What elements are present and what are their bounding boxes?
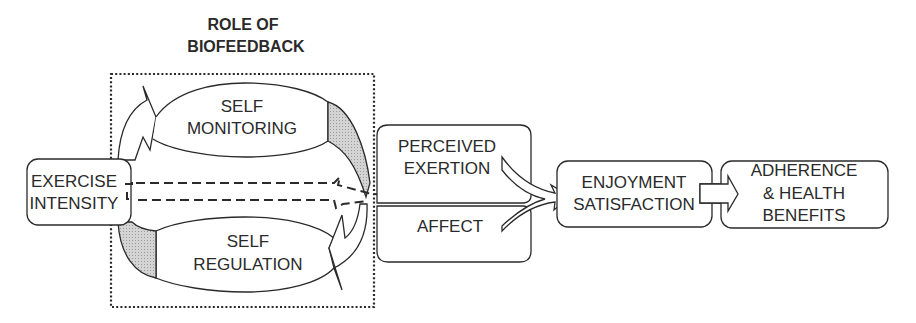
- exercise-intensity-label-2: INTENSITY: [30, 193, 119, 215]
- adherence-label-3: BENEFITS: [762, 205, 845, 227]
- self-monitoring-label-2: MONITORING: [187, 118, 297, 140]
- title-line-2: BIOFEEDBACK: [187, 36, 304, 58]
- enjoyment-label-1: ENJOYMENT: [582, 172, 687, 194]
- arrow-regulation-to-exertion: [329, 204, 367, 290]
- affect-label: AFFECT: [417, 216, 483, 238]
- title-line-1: ROLE OF: [207, 14, 278, 36]
- arrow-exercise-to-monitoring: [118, 86, 156, 160]
- enjoyment-label-2: SATISFACTION: [573, 194, 695, 216]
- adherence-label-1: ADHERENCE: [751, 160, 858, 182]
- perceived-exertion-label-1: PERCEIVED: [398, 136, 496, 158]
- perceived-exertion-label-2: EXERTION: [404, 158, 491, 180]
- adherence-label-2: & HEALTH: [763, 183, 845, 205]
- self-regulation-label-1: SELF: [227, 231, 270, 253]
- dashed-arrow-exercise-to-exertion: [125, 177, 396, 208]
- self-monitoring-label-1: SELF: [221, 96, 264, 118]
- shade-exercise-to-regulation: [118, 222, 156, 278]
- exercise-intensity-label-1: EXERCISE: [31, 171, 117, 193]
- self-regulation-label-2: REGULATION: [193, 254, 302, 276]
